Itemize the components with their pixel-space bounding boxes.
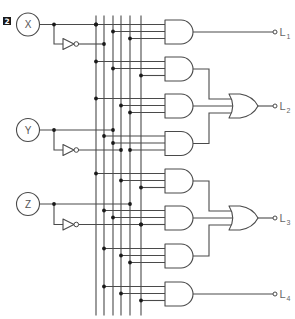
output-terminal-icon (273, 30, 277, 34)
junction-dot (119, 148, 123, 152)
junction-dot (102, 209, 106, 213)
junction-dot (111, 141, 115, 145)
junctions (52, 23, 143, 303)
output-subscript: 3 (287, 219, 291, 226)
or-input-connector (193, 181, 234, 211)
wires (40, 16, 274, 315)
junction-dot (139, 186, 143, 190)
junction-dot (94, 60, 98, 64)
output-terminal-icon (273, 292, 277, 296)
not-gate-icon (63, 39, 74, 50)
junction-dot (139, 74, 143, 78)
junction-dot (52, 202, 56, 206)
junction-dot (94, 97, 98, 101)
junction-dot (102, 134, 106, 138)
junction-dot (119, 179, 123, 183)
junction-dot (119, 104, 123, 108)
junction-dot (102, 285, 106, 289)
output-terminal-icon (273, 216, 277, 220)
and-gate-icon-a1 (165, 20, 193, 44)
junction-dot (139, 223, 143, 227)
junction-dot (111, 128, 115, 132)
output-subscript: 1 (287, 33, 291, 40)
and-gate-icon-a5 (165, 169, 193, 193)
output-subscript: 2 (287, 107, 291, 114)
or-input-connector (193, 113, 234, 144)
inversion-bubble (74, 222, 79, 227)
output-subscript: 4 (287, 295, 291, 302)
junction-dot (94, 172, 98, 176)
junction-dot (102, 42, 106, 46)
or-input-connector (193, 225, 234, 256)
junction-dot (52, 23, 56, 27)
inversion-bubble (74, 148, 79, 153)
and-gate-icon-a8 (165, 282, 193, 306)
junction-dot (128, 261, 132, 265)
junction-dot (94, 23, 98, 27)
output-label: L (280, 100, 286, 112)
and-gate-icon-a7 (165, 244, 193, 268)
input-label: Z (25, 199, 31, 210)
junction-dot (119, 254, 123, 258)
junction-dot (102, 247, 106, 251)
input-z: Z (17, 193, 40, 216)
output-label: L (280, 212, 286, 224)
junction-dot (52, 128, 56, 132)
output-l3: L3 (273, 212, 291, 226)
and-gate-icon-a2 (165, 57, 193, 81)
output-l1: L1 (273, 26, 291, 40)
output-terminal-icon (273, 104, 277, 108)
not-gate-icon (63, 145, 74, 156)
circuit-figure: 2 XYZL1L2L3L4 (0, 0, 295, 319)
badge-number: 2 (4, 17, 9, 26)
and-gate-icon-a3 (165, 94, 193, 118)
input-x: X (17, 13, 40, 36)
or-gate-icon-or2 (229, 206, 258, 230)
figure-number-badge: 2 (3, 17, 11, 26)
junction-dot (128, 148, 132, 152)
junction-dot (139, 299, 143, 303)
and-gate-icon-a6 (165, 206, 193, 230)
inversion-bubble (74, 42, 79, 47)
output-l2: L2 (273, 100, 291, 114)
or-gate-icon-or1 (229, 94, 258, 118)
output-label: L (280, 288, 286, 300)
output-l4: L4 (273, 288, 291, 302)
input-label: X (25, 19, 32, 30)
input-y: Y (17, 119, 40, 142)
junction-dot (111, 67, 115, 71)
junction-dot (128, 111, 132, 115)
junction-dot (128, 202, 132, 206)
inverter-branch (54, 25, 63, 45)
or-input-connector (193, 69, 234, 99)
logic-circuit-diagram: 2 XYZL1L2L3L4 (0, 0, 295, 319)
junction-dot (128, 37, 132, 41)
and-gate-icon-a4 (165, 132, 193, 156)
inverter-branch (54, 130, 63, 150)
not-gate-icon (63, 219, 74, 230)
junction-dot (119, 292, 123, 296)
output-label: L (280, 26, 286, 38)
junction-dot (111, 30, 115, 34)
inverter-branch (54, 204, 63, 225)
input-label: Y (25, 125, 32, 136)
junction-dot (111, 216, 115, 220)
